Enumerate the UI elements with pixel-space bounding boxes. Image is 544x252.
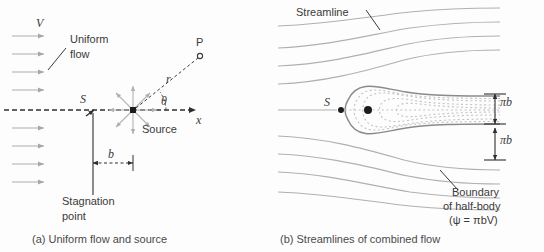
boundary-label-line3: (ψ = πbV)	[449, 214, 498, 226]
radius-label: r	[166, 72, 171, 86]
x-axis-label: x	[195, 113, 202, 127]
panel-a-caption: (a) Uniform flow and source	[32, 233, 167, 245]
stagnation-s-label: S	[80, 92, 86, 106]
panel-b-caption: (b) Streamlines of combined flow	[280, 233, 440, 245]
boundary-label-line2: of half-body	[443, 200, 501, 212]
source-label: Source	[142, 123, 177, 135]
streamline-label: Streamline	[296, 6, 349, 18]
source-point-marker-b	[364, 106, 372, 114]
uniform-flow-label: Uniform	[70, 33, 109, 45]
uniform-flow-label-2: flow	[70, 48, 90, 60]
source-point-marker	[130, 107, 136, 113]
figure-svg: V Uniform flow x S	[0, 0, 544, 252]
boundary-label-line1: Boundary	[452, 186, 500, 198]
pib-upper-label: πb	[500, 95, 512, 109]
distance-b-label: b	[108, 147, 114, 161]
figure-container: V Uniform flow x S	[0, 0, 544, 252]
stagnation-point-label: Stagnation	[62, 195, 115, 207]
theta-label: θ	[161, 94, 167, 108]
pib-lower-label: πb	[500, 133, 512, 147]
point-p-label: P	[196, 36, 203, 48]
stagnation-point-label-2: point	[62, 210, 86, 222]
stagnation-s-label-b: S	[324, 95, 330, 109]
stagnation-point-marker	[338, 107, 344, 113]
